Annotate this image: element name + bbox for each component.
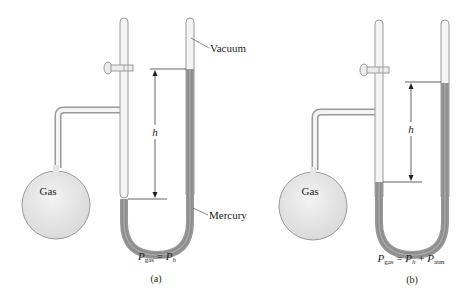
panel-b: Gas h Pgas = Ph + Patm	[279, 20, 449, 286]
manometer-diagram: Gas h	[0, 0, 476, 303]
gas-bulb	[22, 171, 90, 239]
equation-b: Pgas = Ph + Patm	[377, 252, 446, 266]
panel-a: Gas h	[22, 18, 247, 285]
left-tube	[375, 20, 383, 200]
stopcock-icon	[104, 62, 133, 74]
equation-a: Pgas = Ph	[137, 250, 177, 264]
caption-a: (a)	[150, 273, 161, 285]
vacuum-label: Vacuum	[210, 42, 246, 54]
left-tube	[120, 18, 128, 198]
height-indicator: h	[383, 82, 441, 182]
mercury-column	[124, 69, 190, 255]
connecting-tube	[315, 112, 378, 170]
gas-label: Gas	[39, 185, 56, 197]
mercury-label: Mercury	[209, 209, 247, 221]
gas-label: Gas	[301, 185, 318, 197]
connecting-tube	[58, 110, 124, 168]
caption-b: (b)	[406, 274, 418, 286]
height-label: h	[408, 123, 414, 135]
gas-bulb	[279, 172, 347, 240]
height-indicator: h	[128, 69, 186, 199]
manometer-figure: Gas h	[0, 0, 476, 303]
mercury-column	[379, 83, 445, 255]
height-label: h	[152, 126, 158, 138]
